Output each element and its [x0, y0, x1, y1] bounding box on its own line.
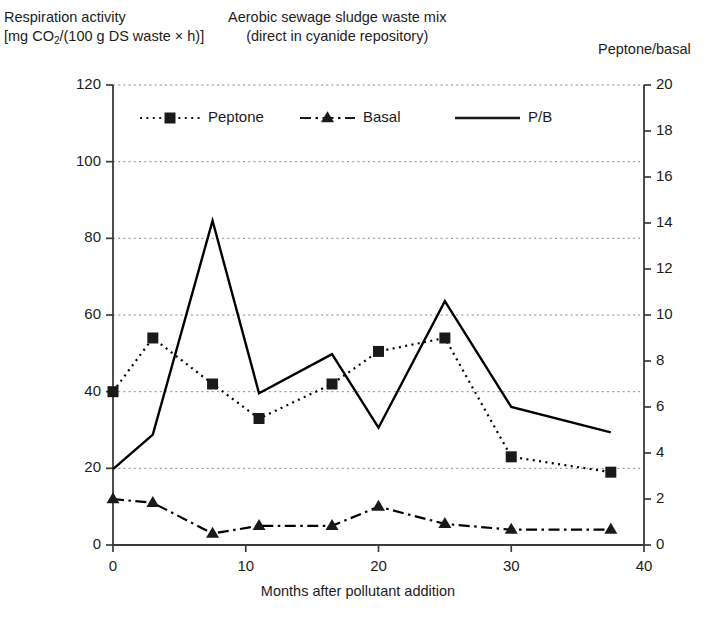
- y-right-ticklabel-12: 12: [656, 259, 696, 276]
- x-ticklabel-40: 40: [619, 557, 669, 574]
- y-right-ticklabel-14: 14: [656, 213, 696, 230]
- axis-ticks: [106, 85, 651, 552]
- datapoint-peptone-5: [373, 346, 384, 357]
- data-series-layer: [107, 221, 618, 538]
- x-ticklabel-10: 10: [221, 557, 271, 574]
- x-ticklabel-20: 20: [354, 557, 404, 574]
- datapoint-peptone-4: [327, 379, 338, 390]
- datapoint-peptone-0: [108, 386, 119, 397]
- datapoint-peptone-7: [506, 451, 517, 462]
- y-left-ticklabel-120: 120: [51, 75, 101, 92]
- datapoint-peptone-2: [207, 379, 218, 390]
- y-right-ticklabel-6: 6: [656, 397, 696, 414]
- legend-label-p-b: P/B: [528, 108, 552, 125]
- datapoint-peptone-1: [147, 333, 158, 344]
- datapoint-basal-3: [253, 519, 266, 530]
- y-right-ticklabel-0: 0: [656, 535, 696, 552]
- y-right-ticklabel-20: 20: [656, 75, 696, 92]
- datapoint-peptone-6: [439, 333, 450, 344]
- legend-marker-peptone: [165, 113, 176, 124]
- series-peptone: [108, 333, 617, 478]
- series-line-basal: [113, 499, 611, 534]
- datapoint-basal-8: [604, 523, 617, 534]
- legend-label-peptone: Peptone: [208, 108, 264, 125]
- y-right-ticklabel-16: 16: [656, 167, 696, 184]
- y-left-ticklabel-60: 60: [51, 305, 101, 322]
- series-basal: [107, 492, 618, 538]
- series-line-peptone: [113, 338, 611, 472]
- x-ticklabel-30: 30: [486, 557, 536, 574]
- x-axis-title: Months after pollutant addition: [0, 583, 716, 599]
- x-ticklabel-0: 0: [88, 557, 138, 574]
- series-p-b: [113, 221, 611, 469]
- y-right-ticklabel-8: 8: [656, 351, 696, 368]
- datapoint-basal-5: [372, 500, 385, 511]
- legend-marks: [140, 111, 520, 123]
- y-left-ticklabel-80: 80: [51, 228, 101, 245]
- legend-label-basal: Basal: [363, 108, 401, 125]
- legend-marker-basal: [321, 111, 334, 122]
- series-line-p-b: [113, 221, 611, 469]
- chart-canvas: [0, 0, 716, 618]
- y-right-ticklabel-10: 10: [656, 305, 696, 322]
- gridlines: [113, 85, 644, 468]
- y-left-ticklabel-40: 40: [51, 382, 101, 399]
- datapoint-basal-0: [107, 492, 120, 503]
- datapoint-basal-1: [146, 496, 159, 507]
- datapoint-peptone-8: [605, 467, 616, 478]
- y-left-ticklabel-100: 100: [51, 152, 101, 169]
- y-left-ticklabel-0: 0: [51, 535, 101, 552]
- y-left-ticklabel-20: 20: [51, 458, 101, 475]
- datapoint-basal-2: [206, 527, 219, 538]
- y-right-ticklabel-4: 4: [656, 443, 696, 460]
- y-right-ticklabel-2: 2: [656, 489, 696, 506]
- datapoint-peptone-3: [254, 413, 265, 424]
- y-right-ticklabel-18: 18: [656, 121, 696, 138]
